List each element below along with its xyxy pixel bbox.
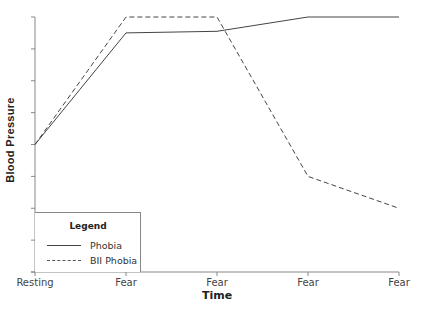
legend: Legend Phobia BII Phobia (35, 212, 141, 272)
x-tick-label: Fear (187, 277, 247, 288)
series-bii-phobia (35, 17, 399, 208)
dashed-line-swatch-icon (47, 260, 81, 261)
series-phobia (35, 17, 399, 145)
legend-label: Phobia (90, 240, 122, 251)
y-axis-label: Blood Pressure (4, 90, 16, 190)
legend-title: Legend (35, 221, 141, 231)
legend-label: BII Phobia (90, 255, 137, 266)
x-tick-label: Fear (278, 277, 338, 288)
x-tick-label: Fear (369, 277, 421, 288)
solid-line-swatch-icon (47, 245, 81, 246)
x-tick-label: Resting (5, 277, 65, 288)
series-lines (35, 17, 399, 208)
legend-item-phobia: Phobia (45, 240, 141, 252)
x-tick-label: Fear (96, 277, 156, 288)
x-axis-label: Time (187, 289, 247, 302)
legend-item-bii-phobia: BII Phobia (45, 255, 141, 267)
